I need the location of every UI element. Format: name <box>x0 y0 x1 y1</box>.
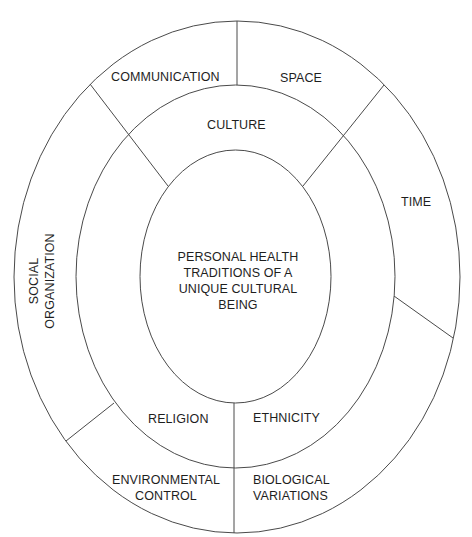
label-center-personal-health: PERSONAL HEALTH TRADITIONS OF A UNIQUE C… <box>178 249 299 313</box>
label-space: SPACE <box>280 70 322 86</box>
label-social-line-2: ORGANIZATION <box>42 233 58 328</box>
divider-upper-left <box>90 84 168 186</box>
label-biological-variations: BIOLOGICAL VARIATIONS <box>253 472 330 504</box>
label-social-organization: SOCIAL ORGANIZATION <box>26 233 58 328</box>
center-line-2: TRADITIONS OF A <box>178 265 299 281</box>
divider-upper-right <box>303 85 384 186</box>
divider-right <box>394 296 453 338</box>
center-line-3: UNIQUE CULTURAL <box>178 281 299 297</box>
center-line-4: BEING <box>178 297 299 313</box>
label-environmental-control: ENVIRONMENTAL CONTROL <box>112 472 220 504</box>
label-communication: COMMUNICATION <box>111 69 220 85</box>
label-ethnicity: ETHNICITY <box>253 410 320 426</box>
label-time: TIME <box>401 194 431 210</box>
label-biological-line-2: VARIATIONS <box>253 488 330 504</box>
label-culture: CULTURE <box>207 117 266 133</box>
label-religion: RELIGION <box>148 411 209 427</box>
label-environmental-line-2: CONTROL <box>112 488 220 504</box>
center-line-1: PERSONAL HEALTH <box>178 249 299 265</box>
label-environmental-line-1: ENVIRONMENTAL <box>112 472 220 488</box>
divider-lower-left <box>66 403 114 441</box>
label-social-line-1: SOCIAL <box>26 233 42 328</box>
label-biological-line-1: BIOLOGICAL <box>253 472 330 488</box>
